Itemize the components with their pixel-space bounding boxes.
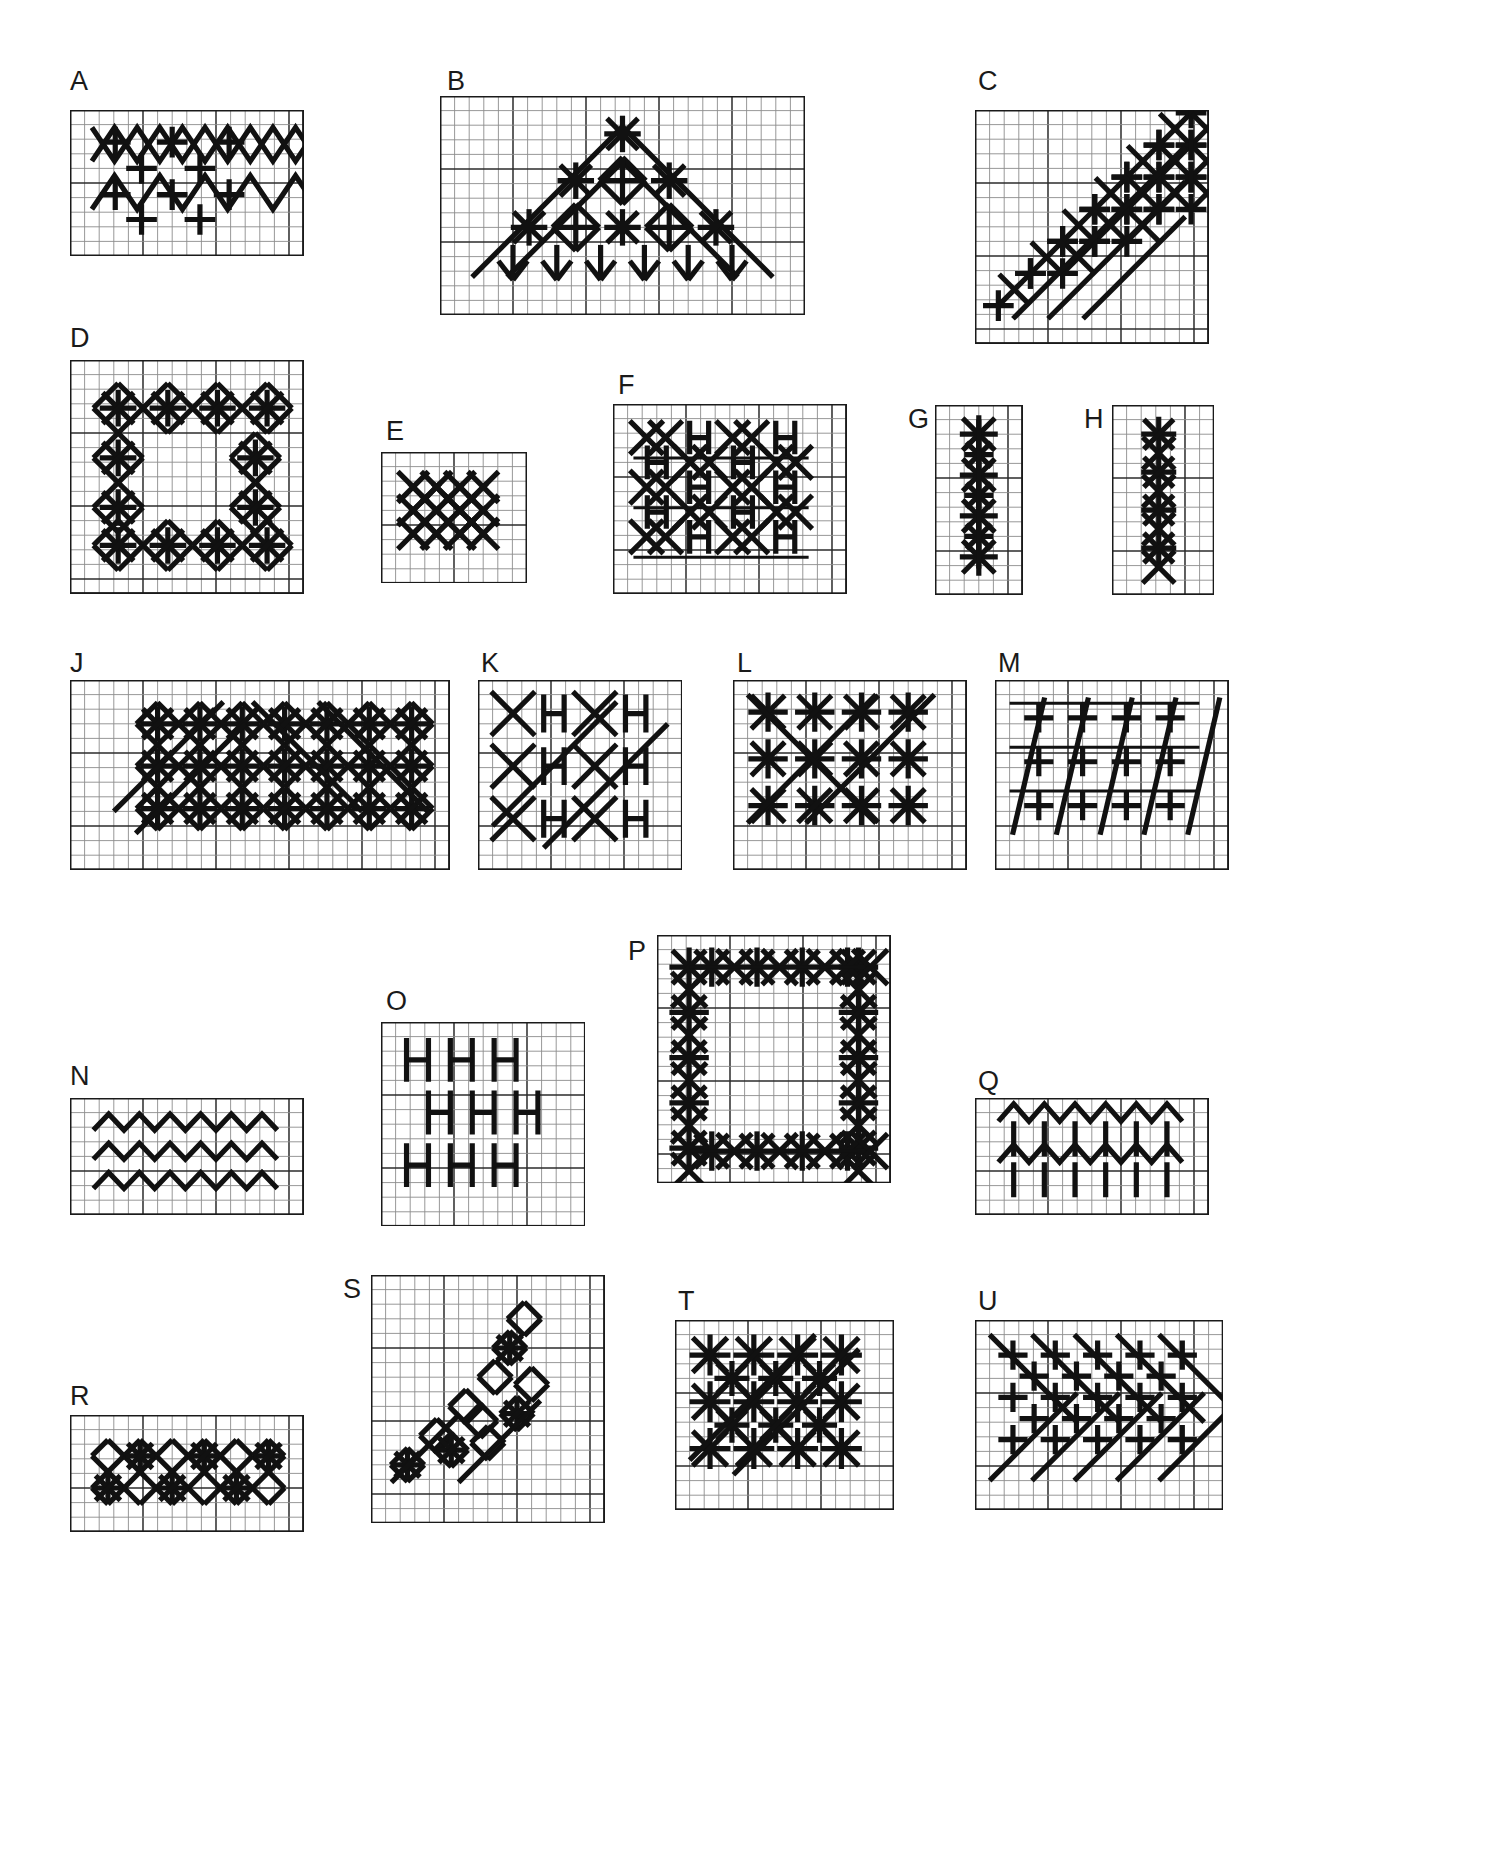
- pattern-chart-h: [1112, 405, 1214, 595]
- panel-label-a: A: [70, 68, 89, 95]
- panel-label-f: F: [618, 372, 635, 399]
- pattern-chart-l: [733, 680, 967, 870]
- pattern-chart-k: [478, 680, 682, 870]
- panel-label-d: D: [70, 325, 90, 352]
- pattern-chart-n: [70, 1098, 304, 1215]
- pattern-chart-s: [371, 1275, 605, 1523]
- panel-label-g: G: [908, 406, 930, 433]
- pattern-chart-sheet: ABCDEFGHJKLMNOPQRSTU: [0, 0, 1510, 1864]
- stitch-layer-k: [491, 692, 668, 848]
- panel-label-q: Q: [978, 1068, 1000, 1095]
- stitch-layer-l: [748, 692, 935, 825]
- panel-label-j: J: [70, 650, 84, 677]
- panel-label-c: C: [978, 68, 998, 95]
- pattern-chart-t: [675, 1320, 894, 1510]
- panel-label-m: M: [998, 650, 1021, 677]
- panel-label-s: S: [343, 1276, 362, 1303]
- panel-label-b: B: [447, 68, 466, 95]
- pattern-chart-f: [613, 404, 847, 594]
- pattern-chart-u: [975, 1320, 1223, 1510]
- pattern-chart-g: [935, 405, 1023, 595]
- panel-label-l: L: [737, 650, 753, 677]
- panel-label-n: N: [70, 1063, 90, 1090]
- stitch-layer-m: [1010, 698, 1220, 835]
- stitch-layer-q: [998, 1104, 1182, 1197]
- panel-label-u: U: [978, 1288, 998, 1315]
- pattern-chart-d: [70, 360, 304, 594]
- pattern-chart-a: [70, 110, 304, 256]
- stitch-layer-c: [983, 110, 1209, 321]
- pattern-chart-b: [440, 96, 805, 315]
- stitch-layer-p: [669, 947, 887, 1183]
- stitch-layer-j: [114, 702, 433, 833]
- pattern-chart-e: [381, 452, 527, 583]
- stitch-layer-n: [93, 1114, 277, 1188]
- pattern-chart-o: [381, 1022, 585, 1226]
- stitch-layer-r: [92, 1440, 285, 1504]
- panel-label-o: O: [386, 988, 408, 1015]
- pattern-chart-j: [70, 680, 450, 870]
- panel-label-e: E: [386, 418, 405, 445]
- panel-label-h: H: [1084, 406, 1104, 433]
- pattern-chart-c: [975, 110, 1209, 344]
- stitch-layer-a: [92, 127, 304, 235]
- stitch-layer-t: [690, 1335, 862, 1475]
- panel-label-t: T: [678, 1288, 695, 1315]
- pattern-chart-r: [70, 1415, 304, 1532]
- stitch-layer-h: [1141, 417, 1176, 583]
- panel-label-r: R: [70, 1383, 90, 1410]
- pattern-chart-m: [995, 680, 1229, 870]
- stitch-layer-o: [407, 1038, 538, 1187]
- pattern-chart-p: [657, 935, 891, 1183]
- panel-label-p: P: [628, 938, 647, 965]
- pattern-chart-q: [975, 1098, 1209, 1215]
- panel-label-k: K: [481, 650, 500, 677]
